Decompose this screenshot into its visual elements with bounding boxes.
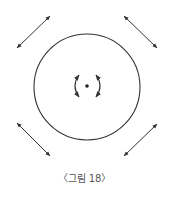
center-dot — [85, 84, 89, 88]
figure-caption: 〈그림 18〉 — [0, 170, 169, 185]
double-arrow-bottom-right-icon — [124, 124, 157, 156]
double-arrow-top-right-icon — [124, 16, 157, 48]
rotation-arrow-left-icon — [75, 75, 79, 97]
double-arrow-bottom-left-icon — [17, 123, 50, 156]
double-arrow-top-left-icon — [17, 16, 50, 48]
rotation-arrow-right-icon — [96, 75, 100, 97]
